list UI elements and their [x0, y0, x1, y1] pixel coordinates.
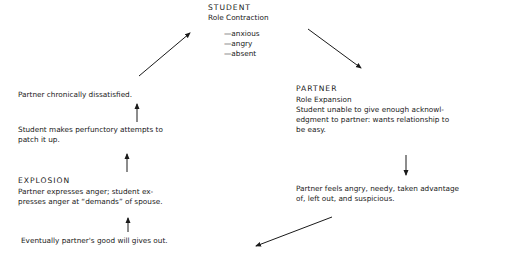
arrow-to-good-will: [256, 217, 332, 246]
arrow-to-partner: [308, 29, 361, 68]
cycle-arrows: [0, 0, 514, 266]
arrow-to-student: [139, 33, 190, 76]
